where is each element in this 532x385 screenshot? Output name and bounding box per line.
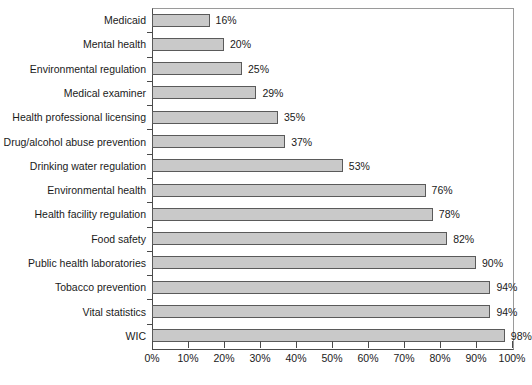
- y-axis-tick: [147, 227, 152, 228]
- bar: [152, 232, 447, 245]
- category-label: Tobacco prevention: [0, 281, 146, 293]
- x-axis-tick: [332, 341, 333, 348]
- y-axis-tick: [147, 299, 152, 300]
- chart-row: Health facility regulation78%: [152, 202, 512, 226]
- x-axis-tick-label: 50%: [321, 352, 342, 364]
- chart-row: Environmental health76%: [152, 178, 512, 202]
- y-axis-tick: [147, 81, 152, 82]
- bar-value-label: 25%: [248, 63, 269, 75]
- chart-row: Drinking water regulation53%: [152, 154, 512, 178]
- y-axis-tick: [147, 178, 152, 179]
- bar-value-label: 76%: [432, 184, 453, 196]
- x-axis-tick: [440, 341, 441, 348]
- bar: [152, 135, 285, 148]
- bar: [152, 14, 210, 27]
- x-axis-tick: [224, 341, 225, 348]
- category-label: Food safety: [0, 233, 146, 245]
- category-label: WIC: [0, 330, 146, 342]
- x-axis-tick-label: 40%: [285, 352, 306, 364]
- bar: [152, 305, 490, 318]
- y-axis-tick: [147, 324, 152, 325]
- x-axis-tick-label: 60%: [357, 352, 378, 364]
- bar-value-label: 16%: [216, 14, 237, 26]
- x-axis-tick: [404, 341, 405, 348]
- y-axis-tick: [147, 32, 152, 33]
- x-axis-tick-label: 0%: [144, 352, 159, 364]
- category-label: Vital statistics: [0, 306, 146, 318]
- category-label: Environmental health: [0, 184, 146, 196]
- bar-value-label: 37%: [291, 136, 312, 148]
- bar-value-label: 53%: [349, 160, 370, 172]
- category-label: Drinking water regulation: [0, 160, 146, 172]
- bar-value-label: 94%: [496, 281, 517, 293]
- y-axis-tick: [147, 154, 152, 155]
- category-label: Health facility regulation: [0, 208, 146, 220]
- y-axis-tick: [147, 202, 152, 203]
- y-axis-tick: [147, 105, 152, 106]
- bar: [152, 38, 224, 51]
- x-axis-tick-label: 80%: [429, 352, 450, 364]
- category-label: Medical examiner: [0, 87, 146, 99]
- bar: [152, 208, 433, 221]
- chart-row: Public health laboratories90%: [152, 251, 512, 275]
- chart-row: Food safety82%: [152, 227, 512, 251]
- x-axis-tick-label: 90%: [465, 352, 486, 364]
- category-label: Health professional licensing: [0, 111, 146, 123]
- x-axis-tick-label: 30%: [249, 352, 270, 364]
- bar-value-label: 20%: [230, 38, 251, 50]
- chart-row: Mental health20%: [152, 32, 512, 56]
- category-label: Public health laboratories: [0, 257, 146, 269]
- bar: [152, 329, 505, 342]
- bar-value-label: 35%: [284, 111, 305, 123]
- category-label: Mental health: [0, 38, 146, 50]
- bar-value-label: 98%: [511, 330, 532, 342]
- category-label: Environmental regulation: [0, 63, 146, 75]
- x-axis-tick: [260, 341, 261, 348]
- bar: [152, 281, 490, 294]
- x-axis-tick: [188, 341, 189, 348]
- bar-value-label: 82%: [453, 233, 474, 245]
- bar: [152, 256, 476, 269]
- x-axis-tick: [368, 341, 369, 348]
- bar-value-label: 90%: [482, 257, 503, 269]
- bar: [152, 159, 343, 172]
- bar: [152, 111, 278, 124]
- chart-row: Medicaid16%: [152, 8, 512, 32]
- bar: [152, 62, 242, 75]
- x-axis-tick-label: 20%: [213, 352, 234, 364]
- bar-value-label: 78%: [439, 208, 460, 220]
- bar-value-label: 94%: [496, 306, 517, 318]
- bar: [152, 86, 256, 99]
- x-axis-tick: [152, 341, 153, 348]
- x-axis-tick-label: 100%: [499, 352, 526, 364]
- y-axis-tick: [147, 129, 152, 130]
- chart-row: Health professional licensing35%: [152, 105, 512, 129]
- x-axis-tick: [296, 341, 297, 348]
- chart-row: Tobacco prevention94%: [152, 275, 512, 299]
- y-axis-tick: [147, 251, 152, 252]
- x-axis-tick: [476, 341, 477, 348]
- category-label: Drug/alcohol abuse prevention: [0, 136, 146, 148]
- chart-row: Drug/alcohol abuse prevention37%: [152, 129, 512, 153]
- y-axis-tick: [147, 57, 152, 58]
- x-axis-tick-label: 70%: [393, 352, 414, 364]
- x-axis-tick-label: 10%: [177, 352, 198, 364]
- chart-row: Vital statistics94%: [152, 299, 512, 323]
- chart-row: Environmental regulation25%: [152, 57, 512, 81]
- bar: [152, 184, 426, 197]
- category-label: Medicaid: [0, 14, 146, 26]
- y-axis-tick: [147, 275, 152, 276]
- bar-value-label: 29%: [262, 87, 283, 99]
- chart-row: Medical examiner29%: [152, 81, 512, 105]
- x-axis-tick: [512, 341, 513, 348]
